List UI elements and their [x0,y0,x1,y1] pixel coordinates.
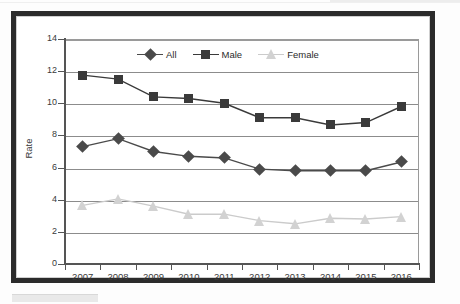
x-tick-mark [242,264,243,270]
y-tick-mark [58,71,65,72]
legend-item-male[interactable]: Male [193,49,243,60]
y-tick-mark [58,39,65,40]
triangle-icon [258,49,284,60]
triangle-icon [266,49,276,59]
series-line-male [83,75,402,125]
chart-legend: AllMaleFemale [137,46,319,62]
data-point-female [325,213,335,223]
x-tick-mark [100,264,101,270]
x-tick-mark [384,264,385,270]
square-icon [201,50,210,59]
scan-artifact-top [0,2,460,3]
x-tick-mark [65,264,66,270]
x-tick-mark [277,264,278,270]
data-point-male [184,94,193,103]
data-point-female [183,209,193,219]
y-tick-mark [58,103,65,104]
data-point-female [254,216,264,226]
legend-label: Male [222,49,243,60]
data-point-female [113,194,123,204]
x-tick-mark [419,264,420,270]
y-tick-mark [58,264,65,265]
legend-item-all[interactable]: All [137,49,177,60]
diamond-icon [137,49,163,60]
series-line-all [83,139,402,171]
x-tick-mark [136,264,137,270]
scan-artifact-top-right [330,0,460,2]
data-point-female [360,214,370,224]
x-tick-mark [171,264,172,270]
data-point-male [291,113,300,122]
data-point-male [220,99,229,108]
data-point-male [149,92,158,101]
legend-item-female[interactable]: Female [258,49,319,60]
data-point-female [148,201,158,211]
y-tick-mark [58,168,65,169]
data-point-male [326,120,335,129]
chart-frame: 02468101214 Rate 20072008200920102011201… [11,11,435,283]
line-chart: 02468101214 Rate 20072008200920102011201… [17,17,431,279]
y-tick-mark [58,200,65,201]
data-point-female [396,212,406,222]
x-tick-mark [348,264,349,270]
data-point-male [78,71,87,80]
chart-frame-inner: 02468101214 Rate 20072008200920102011201… [16,16,430,278]
data-point-female [219,209,229,219]
legend-label: All [166,49,177,60]
data-point-male [361,118,370,127]
data-point-male [114,75,123,84]
y-tick-mark [58,135,65,136]
legend-label: Female [287,49,319,60]
y-tick-mark [58,232,65,233]
scanned-page: 02468101214 Rate 20072008200920102011201… [0,0,460,304]
data-point-female [77,200,87,210]
series-line-female [83,199,402,224]
x-tick-mark [313,264,314,270]
data-point-female [290,219,300,229]
data-point-male [255,113,264,122]
x-tick-mark [207,264,208,270]
scan-artifact-bottom [12,294,98,302]
data-point-male [397,102,406,111]
square-icon [193,49,219,60]
diamond-icon [144,48,157,61]
